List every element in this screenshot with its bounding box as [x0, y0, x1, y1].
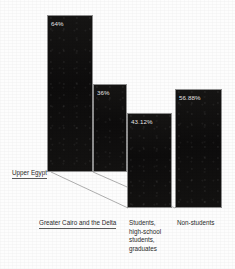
category-label-upper-egypt: Upper Egypt — [12, 169, 47, 179]
bar-value-upper-egypt: 64% — [51, 20, 64, 27]
bar-upper-egypt — [47, 15, 93, 172]
bar-value-non-students: 56.88% — [179, 94, 201, 101]
category-label-greater-cairo-delta: Greater Cairo and the Delta — [39, 219, 116, 229]
bar-students — [127, 113, 172, 208]
category-label-students: Students, high-school students, graduate… — [129, 219, 171, 253]
bar-chart: 64%36%43.12%56.88% Upper EgyptGreater Ca… — [0, 0, 235, 269]
bar-value-greater-cairo-delta: 36% — [97, 89, 110, 96]
category-label-non-students: Non-students — [177, 219, 214, 228]
bar-non-students — [175, 89, 222, 208]
bar-greater-cairo-delta — [93, 84, 127, 172]
bar-value-students: 43.12% — [131, 118, 153, 125]
upper-egypt-leader — [51, 172, 128, 208]
